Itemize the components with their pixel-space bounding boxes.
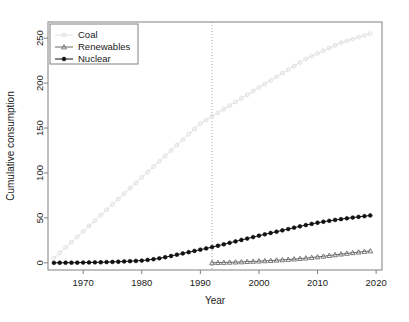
legend-label-renewables: Renewables bbox=[78, 41, 131, 52]
data-point bbox=[204, 247, 208, 251]
data-point bbox=[263, 232, 267, 236]
y-tick-label-200: 200 bbox=[35, 75, 46, 91]
data-point bbox=[58, 261, 62, 265]
data-point bbox=[322, 220, 326, 224]
y-tick-label-0: 0 bbox=[35, 260, 46, 265]
data-point bbox=[333, 218, 337, 222]
data-point bbox=[152, 257, 156, 261]
data-point bbox=[99, 260, 103, 264]
y-axis-title: Cumulative consumption bbox=[5, 91, 16, 201]
data-point bbox=[116, 260, 120, 264]
data-point bbox=[286, 227, 290, 231]
data-point bbox=[339, 217, 343, 221]
data-point bbox=[75, 261, 79, 265]
data-point bbox=[64, 261, 68, 265]
data-point bbox=[357, 215, 361, 219]
data-point bbox=[193, 249, 197, 253]
data-point bbox=[216, 244, 220, 248]
data-point bbox=[111, 260, 115, 264]
data-point bbox=[298, 224, 302, 228]
series-nuclear bbox=[52, 214, 372, 265]
data-point bbox=[146, 258, 150, 262]
data-point bbox=[81, 261, 85, 265]
data-point bbox=[93, 260, 97, 264]
data-point bbox=[52, 261, 56, 265]
y-tick-label-150: 150 bbox=[35, 120, 46, 136]
data-point bbox=[134, 259, 138, 263]
data-point bbox=[292, 226, 296, 230]
data-point bbox=[304, 223, 308, 227]
x-tick-label-2010: 2010 bbox=[307, 277, 328, 288]
data-point bbox=[327, 219, 331, 223]
data-point bbox=[251, 235, 255, 239]
data-point bbox=[222, 242, 226, 246]
data-point bbox=[245, 237, 249, 241]
data-point bbox=[210, 245, 214, 249]
data-point bbox=[163, 255, 167, 259]
data-point bbox=[368, 249, 373, 253]
data-point bbox=[169, 254, 173, 258]
figure-container: 050100150200250197019801990200020102020Y… bbox=[0, 0, 409, 322]
data-point bbox=[122, 260, 126, 264]
data-point bbox=[351, 216, 355, 220]
data-point bbox=[228, 241, 232, 245]
data-point bbox=[280, 228, 284, 232]
data-point bbox=[310, 222, 314, 226]
data-point bbox=[140, 259, 144, 263]
x-axis-title: Year bbox=[205, 295, 226, 306]
x-tick-label-1970: 1970 bbox=[73, 277, 94, 288]
data-point bbox=[198, 248, 202, 252]
data-point bbox=[87, 261, 91, 265]
data-point bbox=[187, 250, 191, 254]
x-tick-label-2000: 2000 bbox=[248, 277, 269, 288]
data-point bbox=[181, 252, 185, 256]
data-point bbox=[257, 234, 261, 238]
y-tick-label-50: 50 bbox=[35, 213, 46, 224]
data-point bbox=[175, 253, 179, 257]
x-tick-label-2020: 2020 bbox=[366, 277, 387, 288]
data-point bbox=[70, 261, 74, 265]
series-renewables bbox=[210, 249, 373, 265]
data-point bbox=[345, 216, 349, 220]
chart-canvas: 050100150200250197019801990200020102020Y… bbox=[0, 0, 409, 322]
data-point bbox=[275, 230, 279, 234]
data-point bbox=[157, 256, 161, 260]
x-tick-label-1990: 1990 bbox=[190, 277, 211, 288]
data-point bbox=[62, 57, 66, 61]
data-point bbox=[105, 260, 109, 264]
y-tick-label-100: 100 bbox=[35, 165, 46, 181]
legend-label-coal: Coal bbox=[78, 29, 98, 40]
data-point bbox=[239, 238, 243, 242]
y-tick-label-250: 250 bbox=[35, 30, 46, 46]
data-point bbox=[363, 214, 367, 218]
data-point bbox=[269, 231, 273, 235]
data-point bbox=[316, 221, 320, 225]
data-point bbox=[368, 214, 372, 218]
chart-legend: CoalRenewablesNuclear bbox=[50, 24, 138, 64]
data-point bbox=[128, 259, 132, 263]
legend-label-nuclear: Nuclear bbox=[78, 53, 111, 64]
data-point bbox=[234, 240, 238, 244]
x-tick-label-1980: 1980 bbox=[131, 277, 152, 288]
